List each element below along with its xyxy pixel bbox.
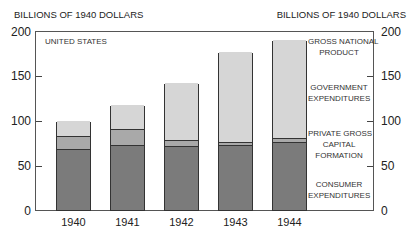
bar-segment-consumer-expenditures xyxy=(57,149,90,210)
y-tick-label: 200 xyxy=(3,25,31,39)
bar-segment-government-expenditures xyxy=(57,121,90,135)
y-axis-title-left: BILLIONS OF 1940 DOLLARS xyxy=(14,9,143,20)
x-tick-label: 1944 xyxy=(270,216,310,228)
x-tick-label: 1940 xyxy=(54,216,94,228)
bar-1941 xyxy=(110,106,145,211)
bar-segment-government-expenditures xyxy=(165,83,198,140)
legend-text: EXPENDITURES xyxy=(308,190,370,201)
bar-1940 xyxy=(56,122,91,211)
y-tick-label: 100 xyxy=(381,114,401,128)
bar-segment-private-gross-capital-formation xyxy=(111,129,144,144)
bar-segment-private-gross-capital-formation xyxy=(57,136,90,149)
y-tick-mark xyxy=(36,166,42,167)
legend-text: CONSUMER xyxy=(308,179,370,190)
y-tick-mark xyxy=(36,121,42,122)
x-tick-label: 1943 xyxy=(216,216,256,228)
y-tick-label: 200 xyxy=(381,25,401,39)
bar-segment-government-expenditures xyxy=(219,52,252,142)
bar-segment-government-expenditures xyxy=(111,105,144,129)
legend-text: GOVERNMENT xyxy=(308,82,370,93)
y-tick-mark xyxy=(367,166,373,167)
x-tick-label: 1942 xyxy=(162,216,202,228)
bar-1944 xyxy=(272,41,307,211)
legend-gnp: GROSS NATIONAL PRODUCT xyxy=(308,36,370,58)
y-tick-label: 0 xyxy=(381,204,388,218)
x-tick-label: 1941 xyxy=(108,216,148,228)
y-tick-label: 50 xyxy=(3,159,31,173)
legend-government: GOVERNMENT EXPENDITURES xyxy=(308,82,370,104)
y-tick-mark xyxy=(36,76,42,77)
legend-text: EXPENDITURES xyxy=(308,93,370,104)
legend-text: CAPITAL xyxy=(308,139,370,150)
bar-segment-consumer-expenditures xyxy=(273,142,306,210)
legend-pgcf: PRIVATE GROSS CAPITAL FORMATION xyxy=(308,128,370,161)
legend-text: PRIVATE GROSS xyxy=(308,128,370,139)
bar-segment-private-gross-capital-formation xyxy=(165,140,198,145)
bar-segment-consumer-expenditures xyxy=(111,145,144,210)
bar-1942 xyxy=(164,84,199,211)
country-label: UNITED STATES xyxy=(45,37,107,46)
legend-text: GROSS NATIONAL xyxy=(308,36,370,47)
bar-segment-private-gross-capital-formation xyxy=(273,138,306,142)
bar-segment-consumer-expenditures xyxy=(219,145,252,210)
y-axis-title-right: BILLIONS OF 1940 DOLLARS xyxy=(277,9,406,20)
legend-text: PRODUCT xyxy=(308,47,370,58)
bar-segment-government-expenditures xyxy=(273,40,306,138)
y-tick-mark xyxy=(367,121,373,122)
y-tick-label: 100 xyxy=(3,114,31,128)
bar-segment-private-gross-capital-formation xyxy=(219,142,252,145)
bar-segment-consumer-expenditures xyxy=(165,146,198,210)
y-tick-label: 0 xyxy=(3,204,31,218)
legend-text: FORMATION xyxy=(308,150,370,161)
y-tick-label: 150 xyxy=(3,69,31,83)
bar-1943 xyxy=(218,53,253,211)
y-tick-label: 150 xyxy=(381,69,401,83)
legend-consumer: CONSUMER EXPENDITURES xyxy=(308,179,370,201)
y-tick-mark xyxy=(367,76,373,77)
y-tick-label: 50 xyxy=(381,159,394,173)
